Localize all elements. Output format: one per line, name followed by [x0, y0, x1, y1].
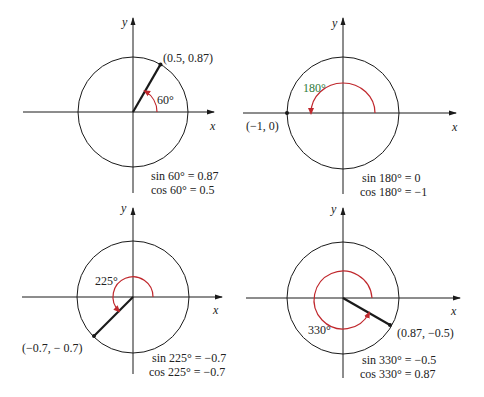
unit-circle-figure: y x (0.5, 0.87) 60° sin 60° = 0.87 cos 6…: [0, 0, 484, 397]
point-label: (0.5, 0.87): [163, 51, 213, 65]
angle-label: 180°: [303, 81, 326, 95]
panel-60-degrees: y x (0.5, 0.87) 60° sin 60° = 0.87 cos 6…: [23, 15, 219, 197]
point-label: (0.87, −0.5): [397, 326, 454, 340]
sin-equation: sin 180° = 0: [362, 171, 421, 185]
angle-label: 330°: [308, 323, 331, 337]
panel-330-degrees: y x (0.87, −0.5) 330° sin 330° = −0.5 co…: [246, 202, 460, 381]
y-axis-label: y: [331, 16, 338, 30]
point-marker: [388, 323, 392, 327]
y-axis-label: y: [330, 202, 337, 216]
cos-equation: cos 225° = −0.7: [149, 365, 225, 379]
x-axis-label: x: [212, 303, 219, 317]
sin-equation: sin 225° = −0.7: [152, 351, 226, 365]
point-label: (−0.7, − 0.7): [22, 341, 83, 355]
radius-line: [343, 298, 390, 325]
sin-equation: sin 60° = 0.87: [151, 169, 219, 183]
cos-equation: cos 60° = 0.5: [151, 183, 215, 197]
angle-label: 225°: [95, 274, 118, 288]
angle-label: 60°: [157, 93, 174, 107]
point-marker: [92, 334, 96, 338]
cos-equation: cos 180° = −1: [360, 185, 427, 199]
panel-225-degrees: y x (−0.7, − 0.7) 225° sin 225° = −0.7 c…: [22, 201, 226, 379]
y-axis-label: y: [120, 201, 127, 215]
x-axis-label: x: [209, 119, 216, 133]
x-axis-label: x: [451, 120, 458, 134]
angle-arc: [145, 91, 157, 112]
point-marker: [159, 62, 163, 66]
sin-equation: sin 330° = −0.5: [362, 353, 436, 367]
panel-180-degrees: y x (−1, 0) 180° sin 180° = 0 cos 180° =…: [243, 16, 458, 199]
y-axis-label: y: [121, 15, 128, 29]
cos-equation: cos 330° = 0.87: [360, 367, 436, 381]
point-marker: [285, 111, 289, 115]
x-axis-label: x: [450, 304, 457, 318]
point-label: (−1, 0): [246, 119, 279, 133]
